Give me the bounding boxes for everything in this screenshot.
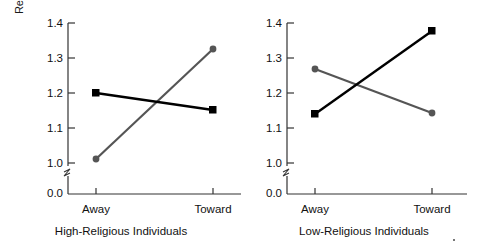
axis-break-icon [64, 169, 70, 176]
axis-break-icon [283, 169, 289, 176]
plot-area-high-religious [0, 0, 242, 248]
panel-low-religious: 1.4 1.3 1.2 1.1 1.0 0.0 Away Toward Low-… [243, 0, 485, 248]
axis-lines [287, 23, 467, 194]
series-square-low-religious [311, 27, 436, 118]
plot-area-low-religious [243, 0, 485, 248]
x-axis-ticks [96, 188, 213, 194]
y-axis-ticks [68, 23, 75, 163]
y-axis-ticks [287, 23, 294, 163]
stray-artifact-dot [453, 239, 455, 241]
series-square-high-religious [92, 89, 217, 114]
x-axis-ticks [315, 188, 432, 194]
series-circle-high-religious [93, 46, 217, 163]
figure: Response Speed (1/latency) 1.4 1.3 1.2 1… [0, 0, 485, 248]
panel-high-religious: Response Speed (1/latency) 1.4 1.3 1.2 1… [0, 0, 242, 248]
